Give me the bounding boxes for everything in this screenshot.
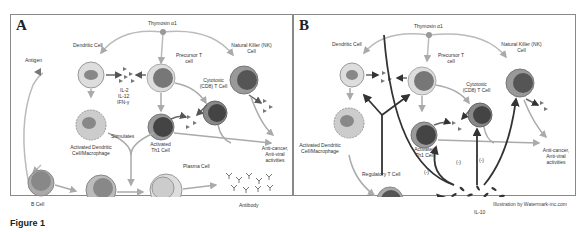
anticancer-label: Anti-cancer, Anti-viral activities	[540, 147, 572, 165]
cytokine-ifng: IFN-γ	[117, 99, 129, 105]
inhibit-marker-2: (-)	[456, 159, 461, 165]
panel-b-label: B	[299, 17, 309, 34]
plasma-label: Plasma Cell	[183, 163, 210, 169]
inhibit-marker-3: (-)	[479, 157, 484, 163]
panel-b: B Thymosin α1 Dendritic Cell Precursor T…	[293, 14, 576, 196]
cytotoxic-label: Cytotoxic (CD8) T Cell	[459, 81, 494, 93]
antigen-label: Antigen	[25, 57, 42, 63]
dendritic-label: Dendritic Cell	[73, 42, 103, 48]
nk-label: Natural Killer (NK) Cell	[499, 41, 544, 53]
inhibit-marker-1: (-)	[424, 169, 429, 175]
il10-label: IL-10	[474, 209, 485, 215]
panel-a: A Thymosin α1 Dendritic Cell Antigen Pre…	[10, 14, 293, 196]
thymosin-label: Thymosin α1	[148, 20, 177, 26]
activated-th1-label: Activated Th1 Cell	[412, 146, 437, 158]
stimulates-label: Stimulates	[111, 133, 134, 139]
precursor-label: Precursor T cell	[174, 52, 204, 64]
thymosin-dot	[160, 29, 166, 35]
bcell-label: B Cell	[31, 201, 44, 207]
illustration-credit: Illustration by Watermark-inc.com	[493, 201, 567, 207]
thymosin-label: Thymosin α1	[414, 23, 443, 29]
precursor-label: Precursor T cell	[436, 52, 466, 64]
activated-th1-label: Activated Th1 Cell	[148, 141, 173, 153]
cytotoxic-label: Cytotoxic (CD8) T Cell	[196, 77, 231, 89]
regulatory-label: Regulatory T Cell	[362, 171, 400, 177]
activated-dc-label: Activated Dendritic Cell/Macrophage	[295, 142, 345, 154]
activated-dc-label: Activated Dendritic Cell/Macrophage	[66, 144, 116, 156]
figure-caption: Figure 1	[10, 218, 45, 228]
panel-a-label: A	[16, 17, 27, 34]
dendritic-label: Dendritic Cell	[332, 41, 362, 47]
nk-label: Natural Killer (NK) Cell	[229, 42, 274, 54]
antibody-label: Antibody	[239, 202, 258, 208]
anticancer-label: Anti-cancer, Anti-viral activities	[259, 145, 291, 163]
